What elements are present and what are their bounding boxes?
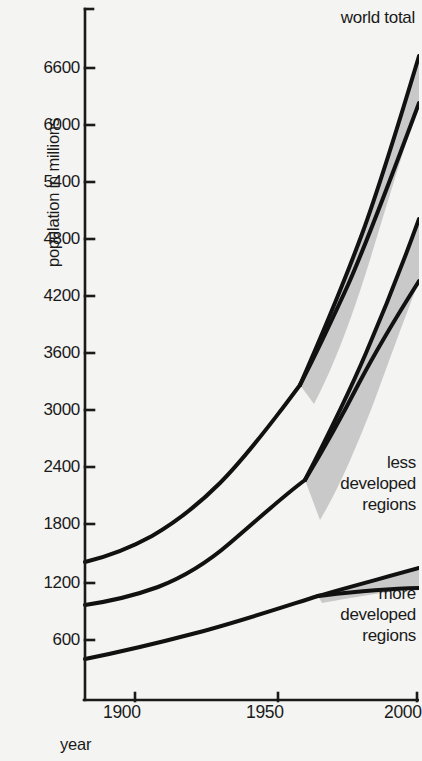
y-tick-label-3000: 3000 xyxy=(2,401,80,418)
series-label-world-total: world total xyxy=(341,7,415,28)
y-tick-label-1200: 1200 xyxy=(2,574,80,591)
y-tick-label-600: 600 xyxy=(2,631,80,648)
world-total-historical-line xyxy=(85,385,300,562)
y-tick-label-6600: 6600 xyxy=(2,59,80,76)
series-label-less-developed-regions: less developed regions xyxy=(340,452,416,515)
series-label-more-developed-regions: more developed regions xyxy=(340,583,416,646)
series-label-more-developed-line-1: more xyxy=(340,583,416,604)
series-label-less-developed-line-3: regions xyxy=(340,494,416,515)
series-label-more-developed-line-3: regions xyxy=(340,625,416,646)
y-tick-label-4800: 4800 xyxy=(2,230,80,247)
y-tick-label-1800: 1800 xyxy=(2,515,80,532)
projection-fans xyxy=(300,56,419,603)
series-label-world-total-text: world total xyxy=(341,7,415,28)
y-tick-label-4200: 4200 xyxy=(2,287,80,304)
y-tick-label-5400: 5400 xyxy=(2,173,80,190)
y-tick-label-2400: 2400 xyxy=(2,458,80,475)
y-axis-ticks xyxy=(85,68,94,640)
series-label-less-developed-line-1: less xyxy=(340,452,416,473)
y-tick-label-3600: 3600 xyxy=(2,344,80,361)
more-developed-historical-line xyxy=(85,596,318,659)
x-tick-label-1950: 1950 xyxy=(246,703,284,721)
less-developed-historical-line xyxy=(85,480,305,605)
series-label-more-developed-line-2: developed xyxy=(340,604,416,625)
x-tick-label-2000: 2000 xyxy=(384,703,422,721)
world-total-high-projection-line xyxy=(300,56,419,385)
x-axis-title: year xyxy=(60,735,91,754)
y-axis-tick-labels: 6600 6000 5400 4800 4200 3600 3000 2400 … xyxy=(0,0,80,761)
y-tick-label-6000: 6000 xyxy=(2,116,80,133)
x-tick-label-1900: 1900 xyxy=(103,703,141,721)
series-label-less-developed-line-2: developed xyxy=(340,473,416,494)
